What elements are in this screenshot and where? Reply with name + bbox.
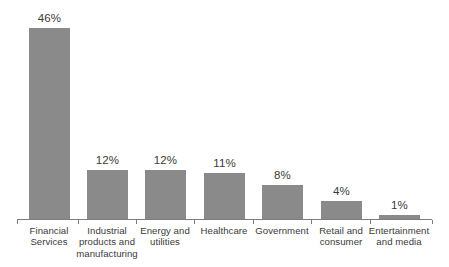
- x-axis-tick: [311, 220, 312, 224]
- category-label-energy-and-utilities: Energy and utilities: [134, 225, 196, 248]
- category-label-financial-services: Financial Services: [18, 225, 80, 248]
- bar-group-financial-services[interactable]: 46%: [29, 28, 70, 219]
- bar-group-industrial-products-and-manufacturing[interactable]: 12%: [87, 170, 128, 219]
- category-label-line: manufacturing: [76, 248, 138, 259]
- bar-value-label: 46%: [17, 12, 82, 25]
- category-label-line: products and: [76, 236, 138, 247]
- bar-group-government[interactable]: 8%: [262, 185, 303, 219]
- bar-value-label: 12%: [75, 154, 140, 167]
- category-label-line: Retail and: [310, 225, 372, 236]
- category-label-line: Industrial: [76, 225, 138, 236]
- bar-group-retail-and-consumer[interactable]: 4%: [321, 201, 362, 219]
- bar-value-label: 11%: [192, 157, 257, 170]
- x-axis-tick: [194, 220, 195, 224]
- category-label-healthcare: Healthcare: [193, 225, 255, 236]
- bar-chart: 46% 12% 12% 11% 8% 4% 1%: [0, 0, 449, 267]
- bar-rect[interactable]: [29, 28, 70, 219]
- category-label-line: and media: [368, 236, 430, 247]
- bar-group-energy-and-utilities[interactable]: 12%: [145, 170, 186, 219]
- category-label-line: Healthcare: [193, 225, 255, 236]
- x-axis-tick: [17, 220, 18, 224]
- x-axis-tick: [432, 220, 433, 224]
- category-label-line: Government: [251, 225, 313, 236]
- category-label-government: Government: [251, 225, 313, 236]
- bar-value-label: 4%: [309, 185, 374, 198]
- category-label-line: Services: [18, 236, 80, 247]
- x-axis-tick: [370, 220, 371, 224]
- category-label-entertainment-and-media: Entertainment and media: [368, 225, 430, 248]
- x-axis-category-labels: Financial Services Industrial products a…: [0, 225, 449, 267]
- x-axis-tick: [253, 220, 254, 224]
- bar-value-label: 1%: [367, 199, 432, 212]
- category-label-line: Financial: [18, 225, 80, 236]
- bar-rect[interactable]: [262, 185, 303, 219]
- bar-rect[interactable]: [321, 201, 362, 219]
- bar-rect[interactable]: [87, 170, 128, 219]
- bar-group-healthcare[interactable]: 11%: [204, 173, 245, 219]
- category-label-line: Entertainment: [368, 225, 430, 236]
- category-label-line: Energy and: [134, 225, 196, 236]
- bar-value-label: 12%: [133, 154, 198, 167]
- category-label-retail-and-consumer: Retail and consumer: [310, 225, 372, 248]
- x-axis-tick: [136, 220, 137, 224]
- category-label-line: consumer: [310, 236, 372, 247]
- x-axis-tick: [78, 220, 79, 224]
- category-label-line: utilities: [134, 236, 196, 247]
- category-label-industrial-products-and-manufacturing: Industrial products and manufacturing: [76, 225, 138, 259]
- bar-value-label: 8%: [250, 169, 315, 182]
- bar-rect[interactable]: [145, 170, 186, 219]
- plot-area: 46% 12% 12% 11% 8% 4% 1%: [0, 0, 449, 219]
- bar-rect[interactable]: [204, 173, 245, 219]
